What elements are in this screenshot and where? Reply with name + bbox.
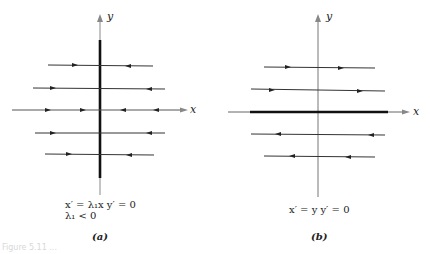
panel-a-sublabel: (a) — [92, 231, 108, 242]
panel-b — [228, 14, 410, 197]
panel-b-sublabel: (b) — [311, 231, 327, 242]
equation-a-line2: λ₁ < 0 — [65, 210, 96, 221]
y-axis-label-b: y — [326, 10, 332, 23]
y-axis-arrow-icon — [97, 14, 103, 22]
figure-caption: Figure 5.11 ... — [2, 243, 57, 252]
x-axis-label-b: x — [413, 105, 419, 118]
panel-a — [12, 14, 188, 195]
x-axis-arrow-icon — [180, 108, 188, 113]
x-axis-arrow-icon — [402, 110, 410, 115]
equation-b-line1: x′ = y y′ = 0 — [289, 204, 350, 215]
equation-a-line1: x′ = λ₁x y′ = 0 — [65, 199, 136, 210]
y-axis-arrow-icon — [315, 14, 321, 22]
x-axis-label-a: x — [190, 103, 196, 116]
y-axis-label-a: y — [107, 10, 113, 23]
